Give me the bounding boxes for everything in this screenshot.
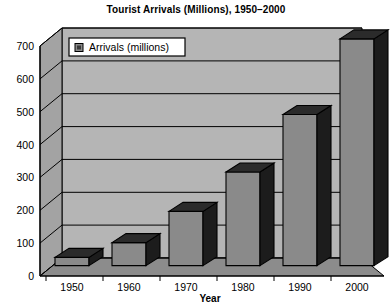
- bar-1990[interactable]: [283, 106, 331, 266]
- y-tick-label: 100: [16, 237, 34, 249]
- y-tick-label: 600: [16, 73, 34, 85]
- x-tick-label: 1990: [288, 281, 312, 293]
- chart-legend[interactable]: Arrivals (millions): [69, 38, 185, 56]
- x-tick-label: 1980: [231, 281, 255, 293]
- legend-label: Arrivals (millions): [89, 41, 169, 53]
- bar-1960[interactable]: [112, 234, 160, 266]
- y-tick-label: 300: [16, 171, 34, 183]
- x-axis-title: Year: [199, 293, 220, 304]
- bar-1970[interactable]: [169, 202, 217, 265]
- x-tick-labels: 1950 1960 1970 1980 1990 2000: [60, 281, 369, 293]
- legend-swatch-inner: [77, 46, 81, 50]
- y-tick-labels: 700 600 500 400 300 200 100 0: [16, 40, 34, 282]
- plot-left-wall: [40, 28, 62, 276]
- x-tick-label: 1950: [60, 281, 84, 293]
- y-tick-label: 200: [16, 204, 34, 216]
- x-tick-label: 1970: [174, 281, 198, 293]
- bar-2000[interactable]: [340, 30, 388, 266]
- x-tick-label: 1960: [117, 281, 141, 293]
- bar-1980[interactable]: [226, 163, 274, 266]
- x-tick-label: 2000: [345, 281, 369, 293]
- y-tick-label: 500: [16, 106, 34, 118]
- y-tick-label: 400: [16, 139, 34, 151]
- y-tick-label: 700: [16, 40, 34, 52]
- chart-container: Tourist Arrivals (Millions), 1950–2000: [0, 0, 392, 304]
- y-tick-label: 0: [28, 270, 34, 282]
- bar-chart-plot: 700 600 500 400 300 200 100 0: [0, 0, 392, 304]
